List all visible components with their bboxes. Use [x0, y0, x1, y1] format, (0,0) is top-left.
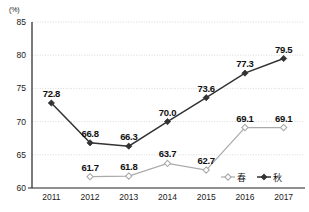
data-point-label: 63.7: [151, 148, 185, 159]
legend-markers-group: [221, 174, 271, 180]
x-axis-tick-label: 2014: [151, 192, 185, 202]
data-point-label: 69.1: [267, 113, 301, 124]
data-point-label: 61.7: [73, 162, 107, 173]
data-point-label: 73.6: [189, 83, 223, 94]
x-axis-tick-label: 2013: [112, 192, 146, 202]
data-point-label: 69.1: [228, 113, 262, 124]
hollow-diamond-icon: [225, 174, 231, 180]
x-axis-tick-label: 2012: [73, 192, 107, 202]
line-chart: (%) 606570758085 20112012201320142015201…: [0, 0, 309, 212]
data-point-label: 66.3: [112, 131, 146, 142]
y-axis-tick-label: 65: [6, 150, 26, 160]
data-point-label: 66.8: [73, 128, 107, 139]
y-axis-tick-label: 80: [6, 50, 26, 60]
data-point-label: 72.8: [34, 88, 68, 99]
filled-diamond-icon: [281, 55, 287, 61]
hollow-diamond-icon: [87, 174, 93, 180]
x-axis-tick-label: 2016: [228, 192, 262, 202]
legend-label: 春: [237, 171, 246, 184]
y-axis-tick-label: 85: [6, 17, 26, 27]
data-point-label: 77.3: [228, 58, 262, 69]
y-axis-tick-label: 70: [6, 117, 26, 127]
legend-label: 秋: [273, 171, 282, 184]
x-axis-tick-label: 2015: [189, 192, 223, 202]
hollow-diamond-icon: [126, 173, 132, 179]
y-axis-tick-label: 75: [6, 83, 26, 93]
hollow-diamond-icon: [281, 124, 287, 130]
data-point-label: 61.8: [112, 161, 146, 172]
x-axis-tick-label: 2011: [34, 192, 68, 202]
filled-diamond-icon: [261, 174, 267, 180]
x-axis-tick-label: 2017: [267, 192, 301, 202]
y-axis-tick-label: 60: [6, 183, 26, 193]
data-point-label: 70.0: [151, 107, 185, 118]
data-point-label: 79.5: [267, 44, 301, 55]
data-point-label: 62.7: [189, 155, 223, 166]
hollow-diamond-icon: [164, 160, 170, 166]
